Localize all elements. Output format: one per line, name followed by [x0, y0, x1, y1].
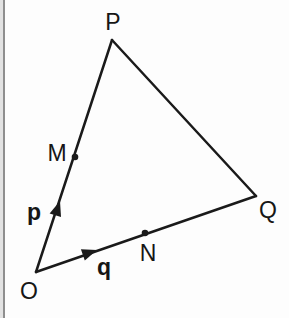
vertex-label-Q: Q: [259, 199, 277, 222]
vertex-label-O: O: [20, 280, 38, 303]
vertex-label-P: P: [105, 11, 120, 34]
edge-PQ: [112, 40, 256, 196]
midpoint-label-M: M: [47, 142, 66, 165]
point-M-dot: [72, 154, 79, 161]
vector-p-label: p: [27, 201, 41, 224]
vector-q-label: q: [97, 256, 111, 279]
vector-p-arrowhead: [50, 201, 61, 217]
vector-q-arrowhead: [81, 249, 97, 260]
triangle-svg: [0, 0, 289, 318]
geometry-figure: P Q O M N p q: [0, 0, 289, 318]
point-N-dot: [142, 230, 149, 237]
midpoint-label-N: N: [140, 242, 157, 265]
